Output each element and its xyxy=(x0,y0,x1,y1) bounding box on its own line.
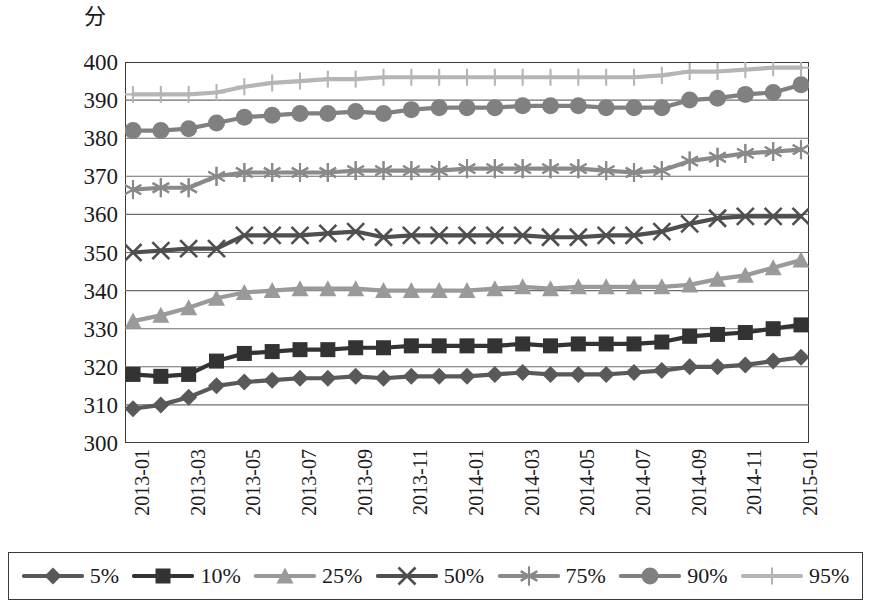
legend-item-95pct[interactable]: 95% xyxy=(741,565,849,587)
y-axis-tick-label: 320 xyxy=(58,356,118,379)
x-axis-tick-label: 2014-11 xyxy=(737,449,757,515)
data-point-marker xyxy=(653,99,670,116)
data-point-marker xyxy=(487,338,502,353)
series-75pct xyxy=(125,140,809,199)
data-point-marker xyxy=(236,109,253,126)
y-axis-tick-label: 400 xyxy=(58,51,118,74)
x-axis-tick-label: 2014-07 xyxy=(626,449,646,516)
x-axis-tick-label: 2013-03 xyxy=(181,449,201,516)
x-axis-tick-label: 2013-01 xyxy=(125,449,145,516)
y-axis-tick-label: 380 xyxy=(58,127,118,150)
data-point-marker xyxy=(763,568,780,585)
data-point-marker xyxy=(486,99,503,116)
data-point-marker xyxy=(598,99,615,116)
asterisk-marker xyxy=(498,565,560,587)
data-point-marker xyxy=(292,73,309,90)
data-point-marker xyxy=(710,327,725,342)
x-axis-tick-label: 2013-07 xyxy=(292,449,312,516)
data-point-marker xyxy=(348,340,363,355)
data-point-marker xyxy=(793,76,810,93)
data-point-marker xyxy=(543,338,558,353)
triangle-marker xyxy=(254,565,316,587)
data-point-marker xyxy=(737,356,754,373)
data-point-marker xyxy=(598,69,615,86)
data-point-marker xyxy=(681,92,698,109)
data-point-marker xyxy=(653,67,670,84)
data-point-marker xyxy=(432,338,447,353)
data-point-marker xyxy=(44,568,61,585)
x-marker xyxy=(376,565,438,587)
legend-item-10pct[interactable]: 10% xyxy=(132,565,240,587)
data-point-marker xyxy=(208,377,225,394)
data-point-marker xyxy=(152,122,169,139)
legend-item-75pct[interactable]: 75% xyxy=(498,565,606,587)
legend-label: 50% xyxy=(444,565,484,587)
data-point-marker xyxy=(738,325,753,340)
data-point-marker xyxy=(514,97,531,114)
legend-item-50pct[interactable]: 50% xyxy=(376,565,484,587)
data-point-marker xyxy=(376,340,391,355)
data-point-marker xyxy=(180,389,197,406)
data-point-marker xyxy=(709,90,726,107)
data-point-marker xyxy=(431,69,448,86)
data-point-marker xyxy=(404,338,419,353)
y-axis-tick-labels: 400390380370360350340330320310300 xyxy=(52,62,118,443)
x-axis-tick-label: 2013-09 xyxy=(348,449,368,516)
series-90pct xyxy=(125,76,809,139)
data-point-marker xyxy=(459,99,476,116)
data-point-marker xyxy=(292,370,309,387)
circle-marker xyxy=(619,565,681,587)
legend-label: 5% xyxy=(90,565,119,587)
legend-label: 10% xyxy=(200,565,240,587)
chart-legend: 5%10%25%50%75%90%95% xyxy=(8,552,863,600)
data-point-marker xyxy=(208,84,225,101)
data-point-marker xyxy=(766,321,781,336)
data-point-marker xyxy=(460,338,475,353)
legend-label: 25% xyxy=(322,565,362,587)
data-point-marker xyxy=(626,99,643,116)
legend-item-90pct[interactable]: 90% xyxy=(619,565,727,587)
data-point-marker xyxy=(375,105,392,122)
legend-item-5pct[interactable]: 5% xyxy=(22,565,119,587)
data-point-marker xyxy=(709,63,726,80)
data-point-marker xyxy=(486,69,503,86)
y-axis-tick-label: 360 xyxy=(58,203,118,226)
data-point-marker xyxy=(642,568,659,585)
data-point-marker xyxy=(486,366,503,383)
legend-label: 75% xyxy=(566,565,606,587)
data-point-marker xyxy=(681,63,698,80)
data-point-marker xyxy=(319,71,336,88)
x-axis-tick-labels: 2013-012013-032013-052013-072013-092013-… xyxy=(125,449,809,549)
data-point-marker xyxy=(737,62,754,78)
data-point-marker xyxy=(209,354,224,369)
data-point-marker xyxy=(570,366,587,383)
data-point-marker xyxy=(265,344,280,359)
data-point-marker xyxy=(765,84,782,101)
data-point-marker xyxy=(375,69,392,86)
chart-container: 分 400390380370360350340330320310300 2013… xyxy=(0,0,871,606)
data-point-marker xyxy=(347,368,364,385)
diamond-marker xyxy=(22,565,84,587)
legend-item-25pct[interactable]: 25% xyxy=(254,565,362,587)
y-axis-tick-label: 340 xyxy=(58,280,118,303)
data-point-marker xyxy=(515,336,530,351)
data-point-marker xyxy=(181,367,196,382)
data-point-marker xyxy=(125,122,142,139)
plus-marker xyxy=(741,565,803,587)
y-axis-tick-label: 370 xyxy=(58,165,118,188)
data-point-marker xyxy=(152,396,169,413)
x-axis-tick-label: 2014-05 xyxy=(570,449,590,516)
y-axis-tick-label: 300 xyxy=(58,432,118,455)
data-point-marker xyxy=(599,336,614,351)
data-point-marker xyxy=(431,99,448,116)
data-point-marker xyxy=(459,69,476,86)
y-axis-tick-label: 350 xyxy=(58,242,118,265)
plot-area xyxy=(125,62,809,443)
data-point-marker xyxy=(709,358,726,375)
data-point-marker xyxy=(319,105,336,122)
data-point-marker xyxy=(126,367,141,382)
data-point-marker xyxy=(403,69,420,86)
data-point-marker xyxy=(571,336,586,351)
data-point-marker xyxy=(319,370,336,387)
x-axis-tick-label: 2015-01 xyxy=(793,449,813,516)
